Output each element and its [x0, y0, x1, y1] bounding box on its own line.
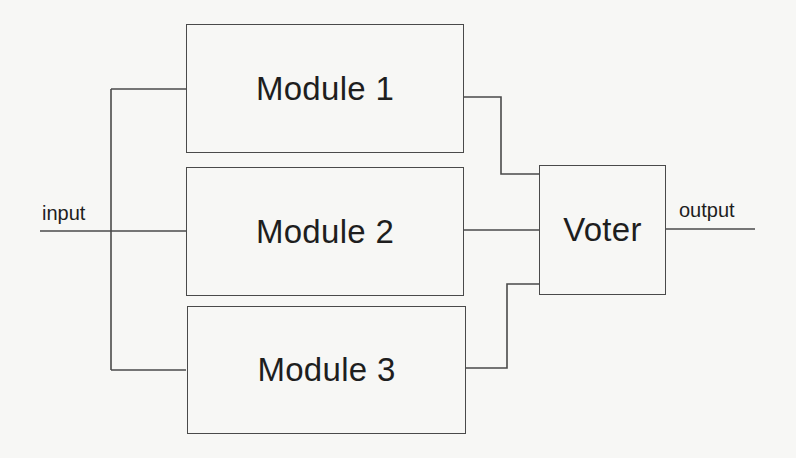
module-3-to-voter: [465, 284, 539, 368]
module-1-label: Module 1: [256, 70, 394, 108]
module-1-box: Module 1: [186, 24, 464, 153]
voter-label: Voter: [563, 211, 642, 249]
module-2-box: Module 2: [186, 167, 464, 296]
module-1-to-voter: [463, 97, 539, 174]
output-label: output: [679, 199, 735, 222]
input-label: input: [42, 202, 85, 225]
module-3-box: Module 3: [187, 306, 466, 434]
module-2-label: Module 2: [256, 213, 394, 251]
module-3-label: Module 3: [257, 351, 395, 389]
voter-box: Voter: [539, 165, 666, 295]
tmr-diagram: input output Module 1 Module 2 Module 3 …: [0, 0, 796, 458]
